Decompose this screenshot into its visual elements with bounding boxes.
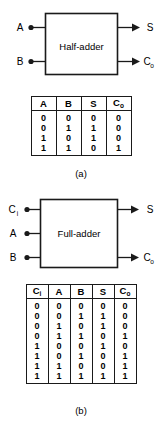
cell-ci: 0 <box>26 321 48 331</box>
cell-s: 0 <box>81 111 106 124</box>
cell-ci: 1 <box>26 361 48 371</box>
cell-b: 1 <box>70 351 92 361</box>
cell-co: 1 <box>114 371 136 384</box>
cell-s: 1 <box>81 133 106 143</box>
table-row: 0 1 0 1 0 <box>26 321 136 331</box>
cell-b: 0 <box>56 111 81 124</box>
half-adder-diagram: Half-adder A B S C o <box>0 0 162 92</box>
table-row: 1 0 0 1 0 <box>26 341 136 351</box>
column-header-b: B <box>56 97 81 111</box>
input-ci-label: C <box>8 204 15 215</box>
cell-co: 0 <box>114 321 136 331</box>
cell-ci: 0 <box>26 311 48 321</box>
cell-ci: 0 <box>26 331 48 341</box>
cell-s: 0 <box>81 143 106 156</box>
table-row: 1 1 0 1 <box>31 143 131 156</box>
cell-b: 1 <box>56 143 81 156</box>
cell-co: 0 <box>114 311 136 321</box>
full-adder-block-label: Full-adder <box>58 228 101 239</box>
output-s-label: S <box>147 22 154 33</box>
cell-s: 1 <box>92 371 114 384</box>
column-header-a: A <box>48 285 70 299</box>
output-co-arrowhead-icon <box>132 58 140 66</box>
cell-b: 1 <box>56 123 81 133</box>
output-s-arrowhead-icon <box>132 24 140 32</box>
column-header-ci: Ci <box>26 285 48 299</box>
table-row: 0 0 1 1 0 <box>26 311 136 321</box>
half-adder-svg: Half-adder A B S C o <box>0 0 162 92</box>
column-header-s: S <box>92 285 114 299</box>
output-co-sublabel: o <box>150 62 154 69</box>
cell-a: 1 <box>48 371 70 384</box>
table-row: 0 1 1 0 1 <box>26 331 136 341</box>
column-header-s: S <box>81 97 106 111</box>
input-a-terminal-dot <box>24 231 29 236</box>
full-adder-svg: Full-adder C i A B S C o <box>0 190 162 282</box>
input-ci-sublabel: i <box>17 210 18 217</box>
cell-s: 1 <box>92 321 114 331</box>
cell-a: 0 <box>48 351 70 361</box>
table-row: 1 0 1 0 1 <box>26 351 136 361</box>
cell-ci: 1 <box>26 341 48 351</box>
cell-s: 1 <box>92 341 114 351</box>
input-b-terminal-dot <box>24 255 29 260</box>
input-a-label: A <box>10 228 17 239</box>
cell-co: 0 <box>114 299 136 312</box>
full-adder-diagram: Full-adder C i A B S C o <box>0 190 162 282</box>
input-a-terminal-dot <box>28 25 33 30</box>
cell-a: 0 <box>31 111 56 124</box>
cell-s: 0 <box>92 299 114 312</box>
full-adder-truth-table: Ci A B S Co 0 0 0 0 0 0 0 1 1 0 <box>26 284 137 384</box>
cell-a: 0 <box>48 299 70 312</box>
cell-s: 1 <box>92 311 114 321</box>
input-b-label: B <box>10 252 17 263</box>
table-row: 0 0 0 0 <box>31 111 131 124</box>
cell-b: 1 <box>70 371 92 384</box>
cell-b: 0 <box>70 341 92 351</box>
figure-half-adder: Half-adder A B S C o <box>0 0 162 92</box>
cell-a: 1 <box>31 133 56 143</box>
caption-a: (a) <box>0 168 162 179</box>
cell-co: 0 <box>114 341 136 351</box>
cell-a: 1 <box>48 361 70 371</box>
half-adder-block-label: Half-adder <box>59 41 103 52</box>
cell-ci: 0 <box>26 299 48 312</box>
input-ci-terminal-dot <box>24 207 29 212</box>
cell-s: 0 <box>92 351 114 361</box>
table-row: 1 1 0 0 1 <box>26 361 136 371</box>
cell-co: 1 <box>106 143 131 156</box>
cell-b: 0 <box>70 321 92 331</box>
output-co-sublabel: o <box>150 258 154 265</box>
cell-ci: 1 <box>26 371 48 384</box>
cell-a: 1 <box>31 143 56 156</box>
table-row: 0 0 0 0 0 <box>26 299 136 312</box>
cell-co: 0 <box>106 111 131 124</box>
input-b-label: B <box>17 56 24 67</box>
figure-full-adder: Full-adder C i A B S C o <box>0 190 162 282</box>
cell-a: 1 <box>48 331 70 341</box>
half-adder-truth-table: A B S Co 0 0 0 0 0 1 1 0 1 0 1 <box>31 96 132 156</box>
cell-co: 0 <box>106 123 131 133</box>
cell-ci: 1 <box>26 351 48 361</box>
cell-s: 0 <box>92 361 114 371</box>
cell-a: 0 <box>31 123 56 133</box>
cell-co: 1 <box>114 331 136 341</box>
column-header-co: Co <box>106 97 131 111</box>
cell-b: 0 <box>56 133 81 143</box>
table-row: 1 0 1 0 <box>31 133 131 143</box>
output-s-label: S <box>147 204 154 215</box>
caption-b: (b) <box>0 405 162 416</box>
cell-b: 0 <box>70 361 92 371</box>
input-a-label: A <box>17 22 24 33</box>
cell-b: 0 <box>70 299 92 312</box>
full-adder-truth-table-wrap: Ci A B S Co 0 0 0 0 0 0 0 1 1 0 <box>0 284 162 384</box>
cell-s: 0 <box>92 331 114 341</box>
table-row: 0 1 1 0 <box>31 123 131 133</box>
cell-b: 1 <box>70 311 92 321</box>
half-adder-truth-table-wrap: A B S Co 0 0 0 0 0 1 1 0 1 0 1 <box>0 96 162 156</box>
column-header-a: A <box>31 97 56 111</box>
table-header-row: Ci A B S Co <box>26 285 136 299</box>
output-s-arrowhead-icon <box>131 206 139 214</box>
column-header-co: Co <box>114 285 136 299</box>
output-co-arrowhead-icon <box>131 254 139 262</box>
